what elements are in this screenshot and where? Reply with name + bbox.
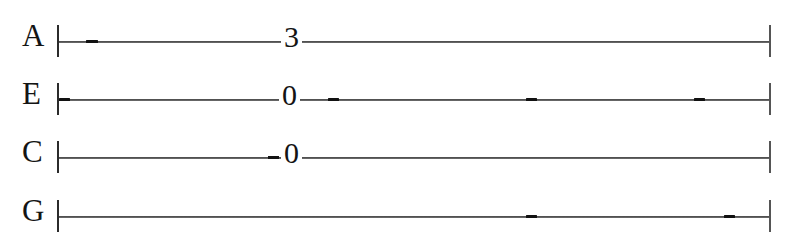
tab-string-row-c: C0	[0, 128, 797, 186]
tab-string-row-e: E0	[0, 70, 797, 128]
dash-mark-e-2	[526, 98, 537, 101]
barline-end-e	[769, 83, 771, 115]
barline-end-c	[769, 141, 771, 173]
fret-prefix-dash-c-0	[268, 156, 279, 159]
dash-mark-g-0	[526, 215, 537, 218]
string-label-g: G	[22, 195, 56, 226]
dash-mark-e-1	[328, 98, 339, 101]
string-line-e	[59, 99, 770, 101]
barline-end-a	[769, 25, 771, 57]
dash-mark-e-0	[59, 98, 70, 101]
string-line-g	[59, 216, 770, 218]
string-label-e: E	[22, 78, 56, 109]
tab-string-row-g: G	[0, 187, 797, 245]
string-label-c: C	[22, 136, 56, 167]
string-line-a	[59, 41, 770, 43]
barline-end-g	[769, 200, 771, 232]
string-label-a: A	[22, 20, 56, 51]
fret-number-a-0: 3	[281, 22, 302, 52]
fret-number-c-0: 0	[281, 138, 302, 168]
dash-mark-a-0	[86, 40, 98, 43]
tab-string-row-a: A3	[0, 12, 797, 70]
tablature-staff: A3E0C0G	[0, 0, 797, 250]
fret-number-e-0: 0	[279, 80, 300, 110]
dash-mark-e-3	[694, 98, 705, 101]
string-line-c	[59, 157, 770, 159]
dash-mark-g-1	[724, 215, 735, 218]
